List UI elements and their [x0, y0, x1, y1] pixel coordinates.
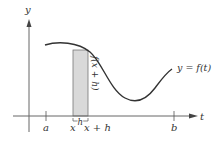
rect-height-label: f(x + h): [90, 55, 100, 91]
tick-label-a: a: [43, 122, 49, 133]
t-axis-arrow-icon: [189, 114, 198, 119]
tick-label-x-plus-h: x + h: [84, 122, 111, 133]
curve-label: y = f(t): [176, 62, 211, 73]
y-axis-arrow-icon: [27, 19, 32, 27]
tick-label-x: x: [70, 122, 76, 133]
y-axis-label: y: [24, 4, 31, 15]
function-curve: [45, 43, 172, 101]
shaded-rectangle: [73, 50, 88, 116]
t-axis-label: t: [200, 111, 205, 122]
tick-label-b: b: [171, 122, 177, 133]
diagram-svg: y t y = f(t) f(x + h) h a x x + h b: [0, 0, 223, 143]
diagram: y t y = f(t) f(x + h) h a x x + h b: [0, 0, 223, 143]
h-label: h: [78, 117, 83, 127]
